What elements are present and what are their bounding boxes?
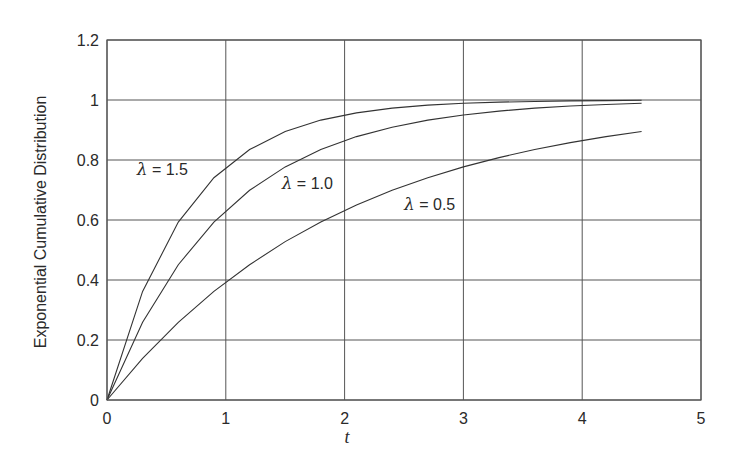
y-tick-label: 0.4 <box>77 272 99 289</box>
curve-10 <box>107 103 642 400</box>
x-tick-label: 4 <box>578 410 587 427</box>
curve-annotations: λ = 1.5λ = 1.0λ = 0.5 <box>136 159 456 214</box>
y-tick-label: 0 <box>90 392 99 409</box>
exponential-cdf-chart: 012345 00.20.40.60.811.2 λ = 1.5λ = 1.0λ… <box>0 0 730 458</box>
y-tick-label: 0.8 <box>77 152 99 169</box>
x-tick-label: 0 <box>103 410 112 427</box>
x-tick-label: 1 <box>221 410 230 427</box>
x-tick-label: 3 <box>459 410 468 427</box>
y-tick-label: 1.2 <box>77 32 99 49</box>
curve-15 <box>107 100 642 400</box>
y-tick-label: 0.6 <box>77 212 99 229</box>
x-tick-label: 5 <box>697 410 706 427</box>
curve-label: λ = 0.5 <box>403 194 455 214</box>
x-tick-label: 2 <box>340 410 349 427</box>
x-axis-label: t <box>344 427 350 447</box>
data-curves <box>107 100 642 400</box>
x-tick-labels: 012345 <box>103 410 706 427</box>
y-tick-label: 0.2 <box>77 332 99 349</box>
y-tick-labels: 00.20.40.60.811.2 <box>77 32 99 409</box>
grid-lines <box>107 40 701 400</box>
y-tick-label: 1 <box>90 92 99 109</box>
curve-label: λ = 1.0 <box>281 173 333 193</box>
curve-label: λ = 1.5 <box>136 159 188 179</box>
y-axis-label: Exponential Cumulative Distribution <box>32 96 49 349</box>
